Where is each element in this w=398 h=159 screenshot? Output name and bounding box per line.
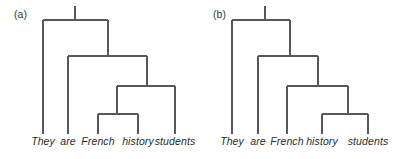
leaf-label-students: students [155,135,196,147]
leaf-label-french: French [270,135,303,147]
leaf-label-history: history [306,135,338,147]
panel-b: (b) TheyareFrenchhistorystudents [199,0,398,159]
leaf-label-they: They [31,135,55,147]
panel-a: (a) TheyareFrenchhistorystudents [0,0,199,159]
leaf-label-they: They [220,135,244,147]
leaf-label-are: are [250,135,265,147]
leaf-label-french: French [81,135,114,147]
leaf-label-students: students [348,135,389,147]
tree-diagram-figure: (a) TheyareFrenchhistorystudents (b) The… [0,0,398,159]
leaf-label-are: are [60,135,75,147]
leaf-label-history: history [122,135,154,147]
